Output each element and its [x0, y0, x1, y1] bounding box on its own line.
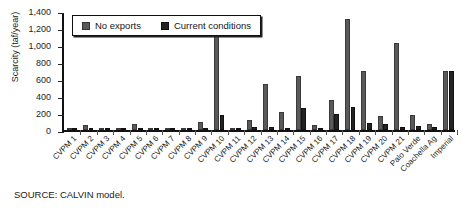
bar-current-conditions — [301, 108, 306, 130]
y-axis-tick-label: 1,400 — [5, 8, 51, 17]
bar-no-exports — [116, 128, 121, 130]
bar-no-exports — [230, 128, 235, 130]
bar-group — [293, 13, 309, 130]
bar-no-exports — [214, 34, 219, 130]
bar-no-exports — [165, 128, 170, 130]
bar-current-conditions — [236, 128, 241, 130]
bar-no-exports — [148, 128, 153, 130]
bar-current-conditions — [138, 128, 143, 130]
bar-no-exports — [378, 116, 383, 130]
bar-no-exports — [83, 125, 88, 130]
bar-current-conditions — [416, 126, 421, 130]
bar-current-conditions — [72, 128, 77, 130]
bar-current-conditions — [220, 115, 225, 130]
bar-current-conditions — [105, 128, 110, 130]
bar-current-conditions — [269, 127, 274, 130]
bar-group — [375, 13, 391, 130]
bar-group — [359, 13, 375, 130]
bar-current-conditions — [432, 127, 437, 130]
bar-no-exports — [296, 76, 301, 130]
bar-no-exports — [361, 71, 366, 130]
bar-current-conditions — [170, 128, 175, 130]
y-axis-tick-label: 800 — [5, 59, 51, 68]
y-axis-tick — [58, 115, 64, 116]
legend-item-no-exports: No exports — [82, 20, 141, 31]
bar-current-conditions — [121, 128, 126, 130]
bar-no-exports — [279, 112, 284, 130]
y-axis-tick-label: 1,200 — [5, 25, 51, 34]
bar-no-exports — [198, 122, 203, 130]
bar-group — [424, 13, 440, 130]
bar-group — [277, 13, 293, 130]
bar-no-exports — [263, 84, 268, 130]
bar-current-conditions — [367, 123, 372, 130]
y-axis-tick-label: 1,000 — [5, 42, 51, 51]
bar-current-conditions — [383, 124, 388, 130]
y-axis-tick — [58, 64, 64, 65]
bar-no-exports — [443, 71, 448, 131]
bar-current-conditions — [318, 128, 323, 130]
bar-current-conditions — [400, 127, 405, 130]
bar-group — [392, 13, 408, 130]
y-axis-tick — [58, 98, 64, 99]
y-axis-tick — [58, 13, 64, 14]
bar-current-conditions — [154, 128, 159, 130]
bar-no-exports — [181, 128, 186, 130]
bar-no-exports — [99, 128, 104, 130]
bar-no-exports — [394, 43, 399, 130]
bar-group — [441, 13, 457, 130]
y-axis-tick — [58, 30, 64, 31]
bar-group — [326, 13, 342, 130]
bar-current-conditions — [449, 71, 454, 130]
bar-no-exports — [247, 120, 252, 130]
legend-swatch-icon-current-conditions — [161, 22, 169, 30]
bar-current-conditions — [203, 128, 208, 130]
bar-current-conditions — [252, 127, 257, 130]
x-axis-labels: CVPM 1CVPM 2CVPM 3CVPM 4CVPM 5CVPM 6CVPM… — [62, 134, 455, 180]
bar-current-conditions — [351, 107, 356, 130]
y-axis-tick — [58, 81, 64, 82]
bar-no-exports — [345, 19, 350, 130]
legend-label-no-exports: No exports — [95, 20, 141, 31]
y-axis-tick-label: 200 — [5, 110, 51, 119]
chart-figure: Scarcity (taf/year) 02004006008001,0001,… — [0, 0, 462, 208]
y-axis-tick — [58, 132, 64, 133]
bar-no-exports — [427, 124, 432, 130]
bar-current-conditions — [187, 128, 192, 130]
bar-no-exports — [67, 128, 72, 130]
bar-current-conditions — [89, 128, 94, 130]
legend-swatch-icon-no-exports — [82, 22, 90, 30]
source-note: SOURCE: CALVIN model. — [14, 189, 125, 200]
y-axis-tick-label: 400 — [5, 93, 51, 102]
bar-group — [310, 13, 326, 130]
x-axis-tick — [457, 130, 458, 135]
chart-legend: No exports Current conditions — [72, 15, 261, 36]
bar-current-conditions — [285, 128, 290, 130]
bar-group — [408, 13, 424, 130]
y-axis-tick — [58, 47, 64, 48]
bar-current-conditions — [334, 114, 339, 130]
bar-no-exports — [329, 100, 334, 130]
bar-no-exports — [410, 115, 415, 130]
legend-item-current-conditions: Current conditions — [161, 20, 251, 31]
bar-no-exports — [312, 125, 317, 130]
legend-label-current-conditions: Current conditions — [174, 20, 251, 31]
y-axis-tick-label: 0 — [5, 127, 51, 136]
bar-group — [261, 13, 277, 130]
y-axis-tick-label: 600 — [5, 76, 51, 85]
bar-group — [342, 13, 358, 130]
bar-no-exports — [132, 124, 137, 130]
